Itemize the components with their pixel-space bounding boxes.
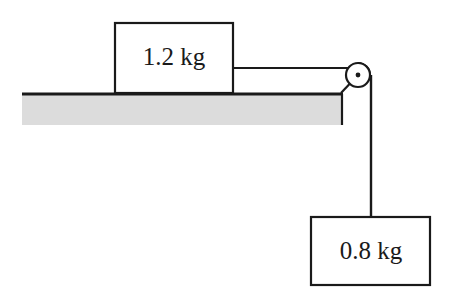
connecting-string <box>233 63 371 218</box>
table-surface-fill <box>22 95 343 125</box>
hanging-block-mass-label: 0.8 kg <box>340 237 403 264</box>
table-block: 1.2 kg <box>115 23 233 93</box>
pulley-system-diagram: 1.2 kg 0.8 kg <box>0 0 458 305</box>
table-block-mass-label: 1.2 kg <box>143 43 206 70</box>
hanging-block: 0.8 kg <box>311 217 430 285</box>
table-surface <box>22 94 343 125</box>
pulley-hub-dot <box>356 73 361 78</box>
physics-diagram-canvas: 1.2 kg 0.8 kg <box>0 0 458 305</box>
